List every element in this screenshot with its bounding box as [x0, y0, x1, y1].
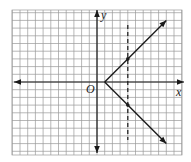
- coordinate-graph: x y O: [0, 0, 191, 162]
- x-axis-label: x: [175, 85, 182, 99]
- origin-label: O: [86, 82, 95, 96]
- y-axis-label: y: [100, 8, 107, 22]
